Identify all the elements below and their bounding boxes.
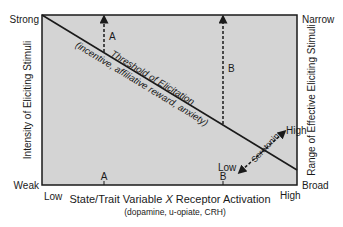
y-right-axis-title: Range of Effective Eliciting Stimuli	[306, 24, 317, 176]
arrow-a-label: A	[109, 31, 116, 42]
y-left-bottom-label: Weak	[14, 180, 40, 191]
x-left-label: Low	[44, 191, 63, 202]
tick-a-label: A	[101, 171, 108, 182]
y-right-bottom-label: Broad	[302, 180, 329, 191]
x-axis-subtitle: (dopamine, u-opiate, CRH)	[124, 207, 226, 217]
arrow-b-label: B	[228, 63, 235, 74]
y-left-top-label: Strong	[10, 14, 39, 25]
y-right-top-label: Narrow	[302, 14, 335, 25]
x-axis-title: State/Trait Variable X Receptor Activati…	[69, 193, 270, 205]
serotonin-high-label: High	[286, 125, 307, 136]
x-right-label: High	[280, 190, 301, 201]
tick-b-label: B	[220, 171, 227, 182]
x-axis-title-suffix: Receptor Activation	[173, 193, 271, 205]
diagram-canvas: Threshold of Elicitation (incentive, aff…	[0, 0, 343, 227]
y-left-axis-title: Intensity of Eliciting Stimuli	[22, 41, 33, 159]
x-axis-title-prefix: State/Trait Variable	[69, 193, 165, 205]
